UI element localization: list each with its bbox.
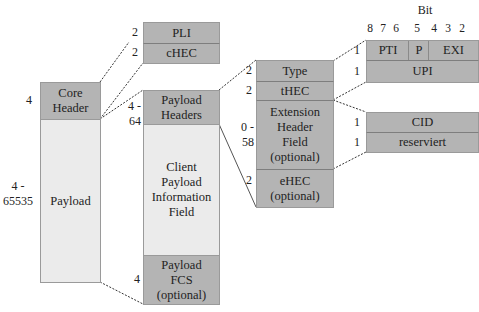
bit-number: 4 <box>429 22 439 35</box>
payload-headers-size: 4 - 64 <box>125 99 141 129</box>
payload-fcs-box: Payload FCS (optional) <box>143 255 220 305</box>
extension-size: 0 - 58 <box>236 120 254 150</box>
upi-field: UPI <box>366 60 479 83</box>
cid-size: 1 <box>350 115 360 130</box>
bit-number: 8 <box>365 22 375 35</box>
bit-number: 7 <box>378 22 388 35</box>
pti-field: PTI <box>367 43 409 58</box>
connector-core-to-pli <box>100 42 129 82</box>
ehec-field: eHEC (optional) <box>256 169 334 208</box>
payload-box: Payload <box>40 119 101 283</box>
payload-headers-box: Payload Headers <box>143 90 220 125</box>
bit-divider <box>408 41 409 60</box>
exi-field: EXI <box>429 43 478 58</box>
bit-number: 2 <box>457 22 467 35</box>
pli-field: PLI <box>143 22 220 44</box>
client-payload-box: Client Payload Information Field <box>143 124 220 256</box>
bit-title: Bit <box>412 3 438 18</box>
pti-row-size: 1 <box>350 43 360 58</box>
ehec-size: 2 <box>240 173 252 188</box>
bit-number: 3 <box>443 22 453 35</box>
cid-field: CID <box>366 112 479 133</box>
chec-field: cHEC <box>143 43 220 64</box>
core-header-label-1: Core <box>58 86 82 101</box>
bit-number: 6 <box>391 22 401 35</box>
reserviert-size: 1 <box>350 135 360 150</box>
bit-divider <box>428 41 429 60</box>
thec-size: 2 <box>240 83 252 98</box>
pti-p-exi-row: PTI P EXI <box>366 40 479 61</box>
chec-size: 2 <box>126 45 138 60</box>
connector-ext-to-cid <box>333 100 366 112</box>
connector-thec-to-upi <box>333 82 366 100</box>
payload-label: Payload <box>50 194 90 209</box>
type-field: Type <box>256 60 334 82</box>
pli-size: 2 <box>126 25 138 40</box>
chec-label: cHEC <box>166 46 197 61</box>
upi-size: 1 <box>350 64 360 79</box>
core-header-label-2: Header <box>52 101 88 116</box>
p-field: P <box>409 43 429 58</box>
reserviert-field: reserviert <box>366 132 479 153</box>
type-size: 2 <box>240 63 252 78</box>
payload-fcs-size: 4 <box>128 272 140 287</box>
connector-ext-to-reserviert <box>333 152 366 169</box>
payload-size: 4 - 65535 <box>2 179 34 209</box>
extension-header-field: Extension Header Field (optional) <box>256 100 334 170</box>
core-header-size: 4 <box>18 93 32 108</box>
bit-number: 5 <box>412 22 422 35</box>
core-header-box: Core Header <box>40 82 101 120</box>
pli-label: PLI <box>172 26 191 41</box>
thec-field: tHEC <box>256 81 334 101</box>
